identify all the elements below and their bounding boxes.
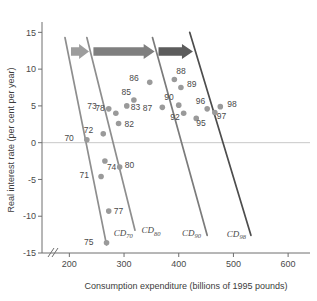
data-point	[106, 106, 112, 112]
y-tick-label: 0	[31, 138, 36, 148]
y-tick-label: 5	[31, 101, 36, 111]
data-point	[117, 164, 123, 170]
point-label-86: 86	[129, 73, 139, 83]
data-point	[113, 110, 119, 116]
point-label-98: 98	[227, 99, 237, 109]
axes-group	[38, 22, 310, 257]
point-label-92: 92	[170, 112, 180, 122]
data-point	[106, 208, 112, 214]
curve-label-subscript: 90	[195, 232, 202, 239]
y-tick-label: -15	[23, 248, 36, 258]
x-tick-label: 500	[226, 259, 241, 269]
data-point	[124, 103, 130, 109]
arrow-70-to-80	[71, 44, 89, 59]
data-point	[116, 121, 122, 127]
y-axis-title: Real interest rate (per cent per year)	[6, 67, 16, 212]
data-point	[178, 85, 184, 91]
arrow-80-to-90	[93, 44, 154, 59]
data-point-labels-group: 7071727374757778808283858687888990929596…	[64, 66, 237, 247]
data-point	[204, 106, 210, 112]
curve-label-subscript: 70	[126, 232, 133, 239]
data-point	[172, 77, 178, 83]
y-tick-label: 10	[26, 64, 36, 74]
point-label-77: 77	[114, 206, 124, 216]
demand-curves-group	[65, 32, 251, 245]
chart-container: 7071727374757778808283858687888990929596…	[0, 0, 317, 301]
x-tick-label: 300	[117, 259, 132, 269]
curve-label-70: CD70	[114, 228, 134, 239]
point-label-89: 89	[187, 79, 197, 89]
curve-label-text: CD	[142, 225, 155, 235]
point-label-90: 90	[164, 92, 174, 102]
curve-label-90: CD90	[182, 228, 202, 239]
curve-label-80: CD80	[142, 225, 162, 236]
y-tick-label: 15	[26, 28, 36, 38]
point-label-71: 71	[80, 170, 90, 180]
data-point	[181, 110, 187, 116]
data-point	[147, 80, 153, 86]
point-label-70: 70	[64, 133, 74, 143]
point-label-82: 82	[125, 119, 135, 129]
x-axis-title: Consumption expenditure (billions of 199…	[84, 281, 287, 291]
point-label-75: 75	[84, 237, 94, 247]
data-point	[100, 131, 106, 137]
data-point	[160, 105, 166, 111]
point-label-78: 78	[95, 103, 105, 113]
point-label-96: 96	[196, 96, 206, 106]
point-label-85: 85	[121, 87, 131, 97]
x-tick-label: 600	[281, 259, 296, 269]
curve-label-text: CD	[182, 228, 195, 238]
point-label-95: 95	[196, 118, 206, 128]
point-label-83: 83	[131, 102, 141, 112]
curve-label-subscript: 80	[154, 230, 161, 237]
scatter-chart-svg: 7071727374757778808283858687888990929596…	[0, 0, 317, 301]
data-point	[176, 102, 182, 108]
point-label-88: 88	[176, 66, 186, 76]
point-label-72: 72	[84, 125, 94, 135]
data-point	[98, 174, 104, 180]
point-label-97: 97	[217, 111, 227, 121]
data-point	[84, 137, 90, 143]
arrow-90-to-98	[158, 44, 192, 59]
x-tick-label: 200	[62, 259, 77, 269]
data-point	[218, 104, 224, 110]
curve-label-text: CD	[227, 229, 240, 239]
y-tick-label: -5	[28, 175, 36, 185]
curve-label-text: CD	[114, 228, 127, 238]
point-label-74: 74	[107, 162, 117, 172]
data-point	[104, 240, 110, 246]
x-tick-label: 400	[171, 259, 186, 269]
curve-label-subscript: 98	[239, 233, 246, 240]
demand-curve-80	[87, 38, 135, 231]
point-label-80: 80	[125, 160, 135, 170]
y-tick-label: -10	[23, 211, 36, 221]
curve-label-98: CD98	[227, 229, 247, 240]
point-label-87: 87	[143, 103, 153, 113]
